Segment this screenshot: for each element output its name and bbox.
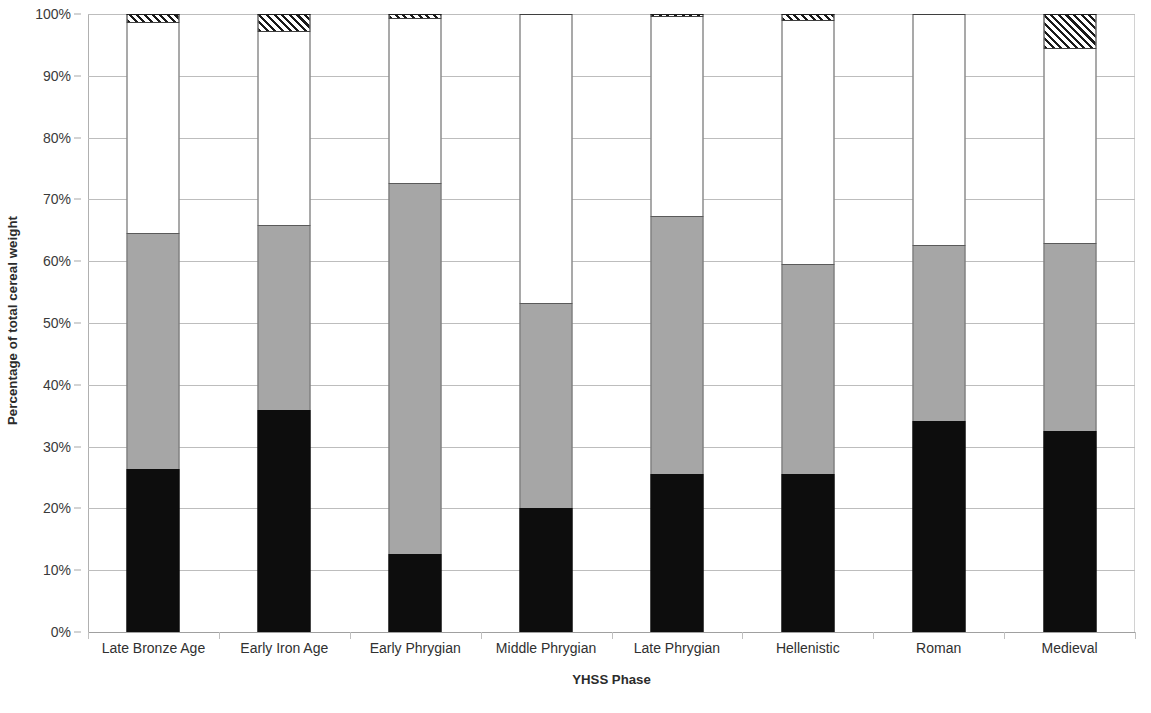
x-axis-tick-label: Medieval [1004,640,1135,670]
bar-segment-gray-segment[interactable] [781,264,834,474]
stacked-bar[interactable] [650,14,703,632]
y-axis-tick-group: 0%10%20%30%40%50%60%70%80%90%100% [26,14,81,632]
bar-segment-gray-segment[interactable] [650,216,703,474]
y-axis-tick-mark [74,384,81,385]
y-axis-tick-label: 70% [43,191,71,207]
bar-segment-gray-segment[interactable] [389,183,442,554]
x-axis-tick-label: Hellenistic [742,640,873,670]
bar-segment-hatched-segment[interactable] [258,14,311,31]
bar-segment-white-segment[interactable] [520,14,573,303]
bar-slot [481,14,612,632]
y-axis-tick-label: 40% [43,377,71,393]
x-axis-tick-label: Middle Phrygian [481,640,612,670]
x-axis-tick-group [88,632,1135,640]
bar-group [88,14,1135,632]
bar-segment-black-segment[interactable] [1043,431,1096,632]
bar-segment-black-segment[interactable] [781,474,834,632]
bar-segment-black-segment[interactable] [520,508,573,632]
x-axis-tick-mark [612,632,613,639]
bar-segment-gray-segment[interactable] [520,303,573,508]
x-axis-tick-label: Early Iron Age [219,640,350,670]
y-axis-tick-label: 20% [43,500,71,516]
y-axis-tick-mark [74,137,81,138]
y-axis-tick-mark [74,199,81,200]
y-axis-tick-label: 80% [43,130,71,146]
y-axis-tick-mark [74,508,81,509]
x-axis-tick-label: Late Phrygian [612,640,743,670]
bar-segment-white-segment[interactable] [781,20,834,264]
stacked-bar[interactable] [1043,14,1096,632]
bar-segment-black-segment[interactable] [389,554,442,632]
bar-segment-gray-segment[interactable] [127,233,180,470]
x-axis-tick-mark [1135,632,1136,639]
bar-slot [1004,14,1135,632]
y-axis-tick-mark [74,446,81,447]
bar-segment-white-segment[interactable] [258,31,311,225]
y-axis-tick-label: 50% [43,315,71,331]
x-axis-tick-label: Roman [873,640,1004,670]
bar-slot [873,14,1004,632]
stacked-bar[interactable] [912,14,965,632]
bar-segment-black-segment[interactable] [258,410,311,632]
y-axis-tick-label: 100% [35,6,71,22]
x-axis-tick-mark [88,632,89,639]
bar-segment-hatched-segment[interactable] [127,14,180,22]
y-axis-tick-label: 30% [43,439,71,455]
x-axis-tick-label: Early Phrygian [350,640,481,670]
y-axis-title: Percentage of total cereal weight [0,0,26,640]
bar-segment-gray-segment[interactable] [912,245,965,421]
y-axis-tick-mark [74,570,81,571]
bar-segment-white-segment[interactable] [1043,48,1096,243]
chart-canvas: Percentage of total cereal weight 0%10%2… [0,0,1151,713]
y-axis-tick-mark [74,75,81,76]
x-axis-tick-mark [481,632,482,639]
bar-segment-white-segment[interactable] [389,18,442,182]
bar-slot [612,14,743,632]
x-axis-tick-mark [873,632,874,639]
x-axis-tick-mark [350,632,351,639]
x-axis-tick-mark [219,632,220,639]
bar-segment-hatched-segment[interactable] [1043,14,1096,48]
bar-slot [219,14,350,632]
x-axis-label-group: Late Bronze AgeEarly Iron AgeEarly Phryg… [88,640,1135,670]
plot-area [88,14,1135,632]
y-axis-tick-label: 90% [43,68,71,84]
x-axis-title: YHSS Phase [88,672,1135,687]
bar-segment-black-segment[interactable] [912,421,965,632]
bar-segment-gray-segment[interactable] [258,225,311,410]
bar-slot [350,14,481,632]
y-axis-tick-mark [74,323,81,324]
y-axis-tick-label: 60% [43,253,71,269]
y-axis-tick-mark [74,14,81,15]
bar-segment-white-segment[interactable] [912,14,965,245]
bar-segment-black-segment[interactable] [650,474,703,632]
stacked-bar[interactable] [389,14,442,632]
y-axis-tick-mark [74,632,81,633]
x-axis-tick-mark [742,632,743,639]
y-axis-tick-label: 10% [43,562,71,578]
x-axis-tick-mark [1004,632,1005,639]
y-axis-tick-label: 0% [51,624,71,640]
y-axis-title-text: Percentage of total cereal weight [6,215,21,424]
stacked-bar[interactable] [781,14,834,632]
x-axis-tick-label: Late Bronze Age [88,640,219,670]
bar-segment-black-segment[interactable] [127,469,180,632]
bar-segment-gray-segment[interactable] [1043,243,1096,431]
stacked-bar[interactable] [520,14,573,632]
stacked-bar[interactable] [258,14,311,632]
bar-slot [742,14,873,632]
y-axis-tick-mark [74,261,81,262]
bar-segment-white-segment[interactable] [127,22,180,233]
bar-segment-white-segment[interactable] [650,16,703,216]
stacked-bar[interactable] [127,14,180,632]
bar-slot [88,14,219,632]
